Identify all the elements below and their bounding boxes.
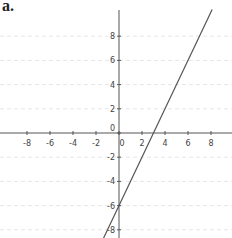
y-tick-label: 6 [110,56,115,65]
x-tick-label: -4 [69,139,77,148]
y-tick-label: 8 [110,32,115,41]
x-tick-label: -2 [92,139,100,148]
line-plot: -8-6-4-202468-8-6-4-202468 [0,0,232,238]
x-tick-label: 0 [119,139,124,148]
x-tick-label: 4 [162,139,167,148]
y-tick-label: -6 [107,202,115,211]
y-tick-label: 4 [110,81,115,90]
x-tick-label: 2 [139,139,144,148]
y-tick-label: 0 [110,124,115,133]
x-tick-label: 8 [208,139,213,148]
x-tick-label: 6 [185,139,190,148]
y-tick-label: 2 [110,105,115,114]
y-tick-label: -2 [107,153,115,162]
data-line [102,10,212,238]
x-tick-label: -6 [46,139,54,148]
x-tick-label: -8 [23,139,31,148]
y-tick-label: -4 [107,177,115,186]
